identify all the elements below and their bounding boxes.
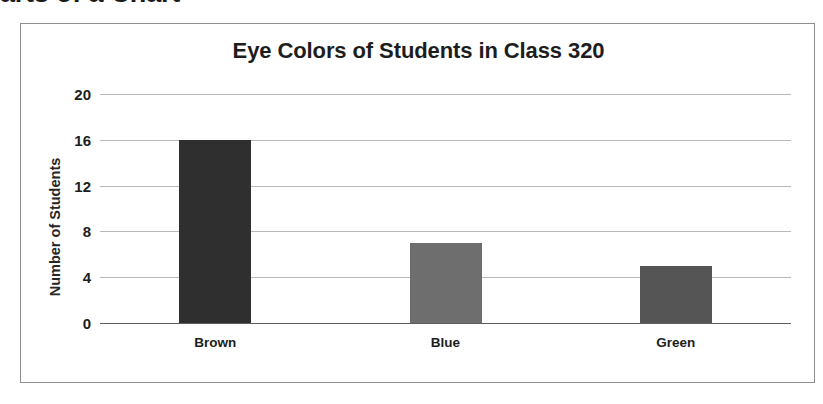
y-axis-tick-label: 8	[83, 223, 91, 240]
x-axis-tick-label-brown: Brown	[194, 335, 236, 350]
y-axis-tick-label: 12	[74, 177, 91, 194]
page-heading: arts of a Chart	[0, 0, 823, 8]
bar-brown[interactable]	[179, 140, 251, 323]
gridline	[100, 94, 791, 95]
y-axis-tick-label: 0	[83, 315, 91, 332]
x-axis-line	[100, 323, 791, 324]
x-axis-tick-label-green: Green	[656, 335, 695, 350]
y-axis-title: Number of Students	[47, 127, 63, 327]
y-axis-tick-label: 20	[74, 86, 91, 103]
y-axis-tick-label: 4	[83, 269, 91, 286]
x-axis-tick-label-blue: Blue	[431, 335, 460, 350]
chart-title: Eye Colors of Students in Class 320	[21, 38, 816, 64]
bar-green[interactable]	[640, 266, 712, 323]
bar-blue[interactable]	[410, 243, 482, 323]
plot-area: 048121620BrownBlueGreen	[100, 94, 791, 323]
y-axis-tick-label: 16	[74, 131, 91, 148]
chart-frame: Eye Colors of Students in Class 320 Numb…	[20, 23, 815, 383]
